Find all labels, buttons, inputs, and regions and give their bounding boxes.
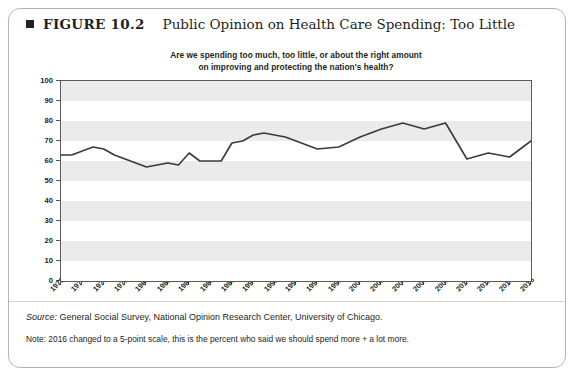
- data-line-svg: [61, 81, 531, 281]
- source-label: Source:: [26, 312, 60, 322]
- y-tick-label: 90: [31, 96, 53, 105]
- y-tick-label: 30: [31, 216, 53, 225]
- plot-area: [60, 80, 532, 282]
- source-note: Source: General Social Survey, National …: [26, 312, 383, 322]
- y-tick-label: 50: [31, 176, 53, 185]
- source-text: General Social Survey, National Opinion …: [60, 312, 383, 322]
- y-tick-label: 60: [31, 156, 53, 165]
- data-line-series: [61, 123, 531, 167]
- y-tick-label: 10: [31, 256, 53, 265]
- y-tick-label: 20: [31, 236, 53, 245]
- y-tick-label: 80: [31, 116, 53, 125]
- y-tick-label: 40: [31, 196, 53, 205]
- footer-divider: [9, 301, 565, 302]
- bottom-note: Note: 2016 changed to a 5-point scale, t…: [26, 334, 409, 344]
- y-tick-label: 70: [31, 136, 53, 145]
- y-tick-label: 100: [31, 76, 53, 85]
